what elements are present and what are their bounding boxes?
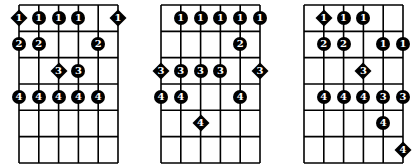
finger-number: 3 bbox=[380, 92, 387, 102]
finger-dot: 3 bbox=[194, 64, 208, 78]
fretboard-grid bbox=[160, 4, 261, 164]
finger-number: 3 bbox=[75, 66, 82, 76]
finger-number: 1 bbox=[177, 13, 184, 23]
scale-diagram-1: 111112223344444 bbox=[19, 5, 118, 163]
finger-number: 2 bbox=[16, 39, 23, 49]
finger-number: 1 bbox=[380, 39, 387, 49]
finger-number: 1 bbox=[400, 39, 407, 49]
finger-number: 1 bbox=[217, 13, 224, 23]
finger-number: 4 bbox=[95, 92, 102, 102]
finger-dot: 4 bbox=[174, 90, 188, 104]
finger-number: 4 bbox=[177, 92, 184, 102]
finger-number: 3 bbox=[55, 66, 62, 76]
finger-number: 4 bbox=[75, 92, 82, 102]
finger-dot: 4 bbox=[32, 90, 46, 104]
finger-number: 1 bbox=[16, 13, 23, 23]
finger-number: 4 bbox=[340, 92, 347, 102]
root-note-diamond: 1 bbox=[109, 9, 127, 27]
finger-number: 2 bbox=[35, 39, 42, 49]
root-note-diamond: 3 bbox=[152, 62, 170, 80]
finger-dot: 1 bbox=[174, 11, 188, 25]
root-note-diamond: 1 bbox=[315, 9, 333, 27]
finger-number: 1 bbox=[115, 13, 122, 23]
root-note-diamond: 3 bbox=[50, 62, 68, 80]
root-note-diamond: 1 bbox=[10, 9, 28, 27]
finger-number: 1 bbox=[35, 13, 42, 23]
scale-diagram-3: 111221134443344 bbox=[304, 5, 403, 163]
finger-number: 2 bbox=[237, 39, 244, 49]
finger-number: 3 bbox=[197, 66, 204, 76]
finger-number: 3 bbox=[177, 66, 184, 76]
finger-number: 4 bbox=[237, 92, 244, 102]
scale-diagram-2: 111112333334444 bbox=[161, 5, 260, 163]
finger-dot: 3 bbox=[174, 64, 188, 78]
finger-number: 4 bbox=[55, 92, 62, 102]
finger-number: 4 bbox=[158, 92, 165, 102]
finger-number: 1 bbox=[320, 13, 327, 23]
finger-number: 1 bbox=[360, 13, 367, 23]
root-note-diamond: 3 bbox=[251, 62, 269, 80]
root-note-diamond: 4 bbox=[394, 141, 412, 159]
finger-number: 3 bbox=[400, 92, 407, 102]
finger-number: 1 bbox=[340, 13, 347, 23]
finger-number: 1 bbox=[55, 13, 62, 23]
finger-number: 1 bbox=[75, 13, 82, 23]
finger-number: 2 bbox=[95, 39, 102, 49]
finger-number: 4 bbox=[197, 118, 204, 128]
finger-number: 4 bbox=[360, 92, 367, 102]
finger-dot: 1 bbox=[194, 11, 208, 25]
finger-number: 1 bbox=[197, 13, 204, 23]
finger-dot: 1 bbox=[337, 11, 351, 25]
finger-number: 4 bbox=[16, 92, 23, 102]
fretboard-grid bbox=[18, 4, 119, 164]
finger-number: 2 bbox=[340, 39, 347, 49]
finger-dot: 4 bbox=[337, 90, 351, 104]
finger-dot: 1 bbox=[396, 37, 410, 51]
fretboard-grid bbox=[303, 4, 404, 164]
finger-number: 1 bbox=[237, 13, 244, 23]
root-note-diamond: 4 bbox=[192, 114, 210, 132]
finger-number: 4 bbox=[320, 92, 327, 102]
root-note-diamond: 3 bbox=[354, 62, 372, 80]
finger-number: 2 bbox=[320, 39, 327, 49]
finger-number: 3 bbox=[257, 66, 264, 76]
finger-number: 4 bbox=[400, 145, 407, 155]
finger-dot: 3 bbox=[396, 90, 410, 104]
finger-number: 4 bbox=[380, 118, 387, 128]
finger-number: 3 bbox=[158, 66, 165, 76]
finger-dot: 1 bbox=[253, 11, 267, 25]
finger-number: 3 bbox=[360, 66, 367, 76]
finger-dot: 4 bbox=[317, 90, 331, 104]
finger-number: 4 bbox=[35, 92, 42, 102]
finger-dot: 1 bbox=[52, 11, 66, 25]
finger-dot: 1 bbox=[32, 11, 46, 25]
finger-dot: 4 bbox=[52, 90, 66, 104]
finger-number: 3 bbox=[217, 66, 224, 76]
finger-number: 1 bbox=[257, 13, 264, 23]
